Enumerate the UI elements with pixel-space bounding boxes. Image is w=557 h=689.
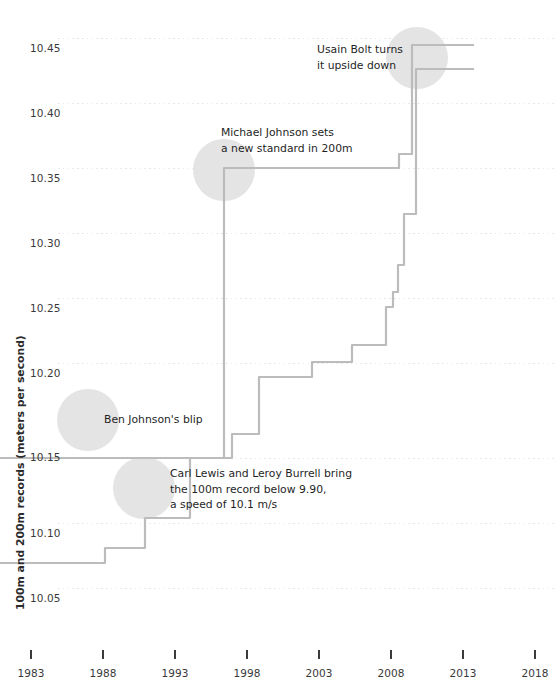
chart-canvas: [0, 0, 557, 689]
ytick-label-10-35: 10.35: [30, 172, 61, 184]
annotation-ben-johnson: Ben Johnson's blip: [104, 412, 203, 428]
ytick-label-10-10: 10.10: [30, 527, 61, 539]
ytick-label-10-30: 10.30: [30, 237, 61, 249]
y-axis-title: 100m and 200m records (meters per second…: [14, 335, 27, 610]
carl-lewis-marker: [113, 457, 175, 519]
highlight-circles: [57, 27, 448, 519]
record-progression-chart: 100m and 200m records (meters per second…: [0, 0, 557, 689]
ytick-label-10-15: 10.15: [30, 451, 61, 463]
annotation-carl-lewis: Carl Lewis and Leroy Burrell bring the 1…: [170, 466, 352, 513]
xtick-label-1998: 1998: [233, 667, 260, 679]
xtick-label-2008: 2008: [377, 667, 404, 679]
x-tick-marks: [31, 650, 535, 659]
xtick-label-2013: 2013: [449, 667, 476, 679]
annotation-usain-bolt: Usain Bolt turns it upside down: [317, 42, 403, 73]
xtick-label-2003: 2003: [305, 667, 332, 679]
ytick-label-10-20: 10.20: [30, 367, 61, 379]
ytick-label-10-05: 10.05: [30, 592, 61, 604]
xtick-label-1983: 1983: [17, 667, 44, 679]
ytick-label-10-25: 10.25: [30, 302, 61, 314]
xtick-label-1988: 1988: [89, 667, 116, 679]
xtick-label-2018: 2018: [521, 667, 548, 679]
xtick-label-1993: 1993: [161, 667, 188, 679]
ytick-label-10-45: 10.45: [30, 42, 61, 54]
annotation-michael-johnson: Michael Johnson sets a new standard in 2…: [221, 125, 353, 156]
ytick-label-10-40: 10.40: [30, 107, 61, 119]
